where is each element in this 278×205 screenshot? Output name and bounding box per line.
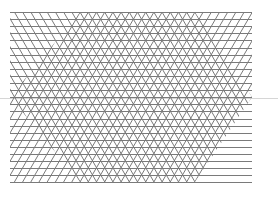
lattice-line: [0, 12, 6, 182]
lattice-line: [269, 12, 278, 182]
lattice-line: [252, 12, 278, 182]
lattice-line: [252, 12, 278, 182]
lattice-line: [277, 12, 278, 182]
lattice-line: [277, 12, 278, 182]
lattice-line: [269, 12, 278, 182]
lattice-line: [260, 12, 278, 182]
lattice-line: [0, 12, 6, 182]
lattice-line: [260, 12, 278, 182]
triangular-lattice-diagram: [0, 0, 278, 205]
